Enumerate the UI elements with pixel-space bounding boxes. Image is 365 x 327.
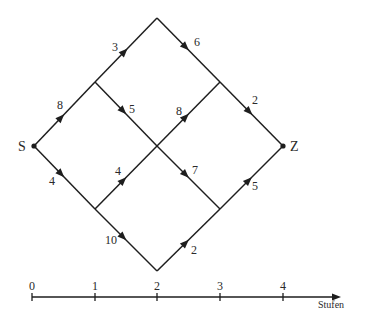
edge-weight-label: 10 — [105, 233, 117, 247]
edge-T-U3: 6 — [157, 18, 220, 82]
node-label: S — [18, 139, 26, 154]
edge-S-U1: 8 — [34, 82, 95, 146]
edges-layer: 8435410687225 — [34, 18, 283, 271]
stage-graph-diagram: 8435410687225 SZ 01234Stufen — [0, 0, 365, 327]
edge-weight-label: 2 — [191, 243, 197, 257]
node-dot-icon — [280, 143, 285, 148]
edge-weight-label: 4 — [49, 174, 55, 188]
edge-weight-label: 4 — [115, 164, 121, 178]
axis-tick-label: 1 — [92, 279, 98, 293]
axis-tick-label: 4 — [280, 279, 286, 293]
node-dot-icon — [31, 143, 36, 148]
edge-S-L1: 4 — [34, 146, 95, 209]
stage-axis: 01234Stufen — [29, 279, 344, 310]
edge-L1-C: 4 — [95, 146, 157, 209]
axis-tick-label: 3 — [217, 279, 223, 293]
axis-tick-label: 2 — [154, 279, 160, 293]
edge-weight-label: 7 — [192, 163, 198, 177]
node-label: Z — [290, 139, 299, 154]
edge-weight-label: 8 — [57, 98, 63, 112]
edge-weight-label: 5 — [129, 102, 135, 116]
edge-weight-label: 5 — [252, 179, 258, 193]
edge-weight-label: 2 — [252, 93, 258, 107]
edge-weight-label: 6 — [194, 35, 200, 49]
edge-L3-Z: 5 — [220, 146, 283, 209]
node-S: S — [18, 139, 37, 154]
edge-weight-label: 3 — [112, 40, 118, 54]
axis-title: Stufen — [318, 299, 344, 310]
edge-C-U3: 8 — [157, 82, 220, 146]
edge-L1-B: 10 — [95, 209, 157, 271]
axis-tick-label: 0 — [29, 279, 35, 293]
edge-weight-label: 8 — [176, 104, 182, 118]
edge-U3-Z: 2 — [220, 82, 283, 146]
edge-U1-C: 5 — [95, 82, 157, 146]
node-Z: Z — [280, 139, 298, 154]
edge-B-L3: 2 — [157, 209, 220, 271]
edge-U1-T: 3 — [95, 18, 157, 82]
edge-C-L3: 7 — [157, 146, 220, 209]
